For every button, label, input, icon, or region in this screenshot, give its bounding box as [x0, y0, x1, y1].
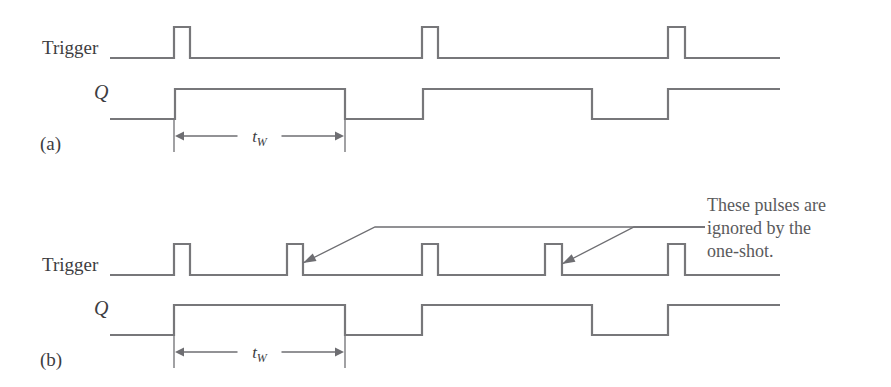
q-label-a: Q	[94, 81, 109, 103]
tw-sub-b: W	[257, 351, 268, 365]
part-label-b: (b)	[40, 349, 62, 371]
part-label-a: (a)	[40, 133, 61, 155]
timing-diagram-figure: Trigger Q (a) tW Trigger Q (b)	[0, 0, 891, 387]
callout-text-line-3: one-shot.	[707, 241, 774, 261]
tw-sub-a: W	[257, 135, 268, 149]
trigger-label-b: Trigger	[42, 254, 99, 275]
q-label-b: Q	[94, 297, 109, 319]
callout-text-line-1: These pulses are	[707, 195, 826, 215]
callout-text-line-2: ignored by the	[707, 218, 811, 238]
trigger-label-a: Trigger	[42, 37, 99, 58]
